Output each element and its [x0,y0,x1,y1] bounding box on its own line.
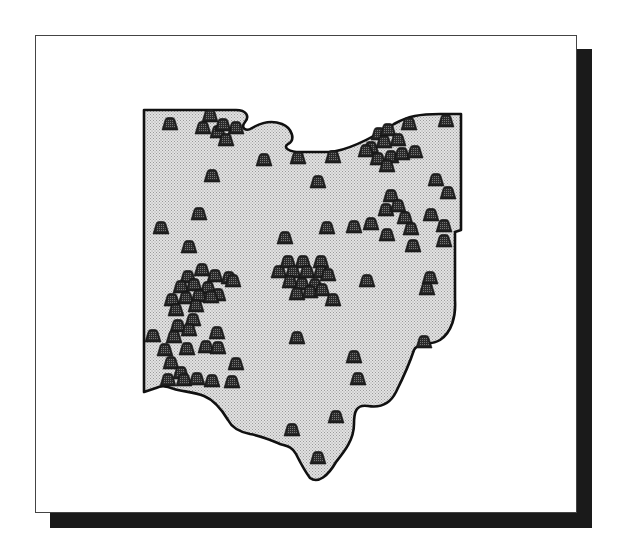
ohio-mound-map [0,0,622,553]
